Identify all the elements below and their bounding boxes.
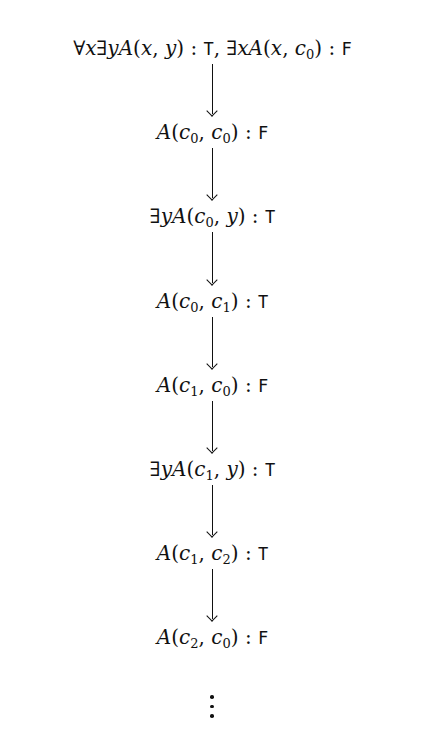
down-arrow-icon	[212, 232, 213, 283]
down-arrow-icon	[212, 569, 213, 619]
truth-value: F	[342, 39, 352, 59]
down-arrow-icon	[212, 64, 213, 114]
down-arrow-icon	[212, 401, 213, 451]
formula-node-5: ∃yA(c1, y) : T	[0, 457, 425, 482]
truth-value: T	[258, 544, 268, 564]
formula-node-7: A(c2, c0) : F	[0, 625, 425, 650]
truth-value: F	[258, 376, 268, 396]
continuation-ellipsis-icon	[209, 695, 215, 724]
down-arrow-icon	[212, 485, 213, 535]
formula-node-6: A(c1, c2) : T	[0, 541, 425, 566]
formula-node-0: ∀x∃yA(x, y) : T, ∃xA(x, c0) : F	[0, 36, 425, 61]
truth-value: T	[265, 207, 275, 227]
formula-node-1: A(c0, c0) : F	[0, 120, 425, 145]
down-arrow-icon	[212, 148, 213, 198]
down-arrow-icon	[212, 317, 213, 367]
formula-node-3: A(c0, c1) : T	[0, 289, 425, 314]
formula-node-2: ∃yA(c0, y) : T	[0, 204, 425, 229]
truth-value: T	[265, 460, 275, 480]
formula-node-4: A(c1, c0) : F	[0, 373, 425, 398]
truth-value: T	[203, 39, 213, 59]
truth-value: F	[258, 628, 268, 648]
truth-value: F	[258, 123, 268, 143]
truth-value: T	[258, 292, 268, 312]
